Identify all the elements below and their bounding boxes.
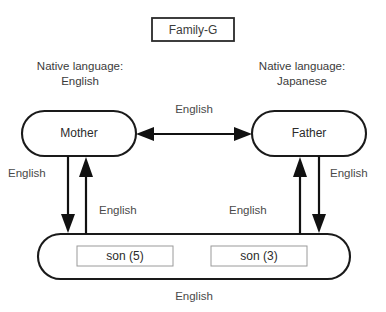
edge-father-to-children-arrowhead [312,214,326,233]
child-label-son-5: son (5) [106,249,143,263]
mother-native-language-line2: English [61,75,99,87]
edge-father-to-children: English [312,156,368,233]
node-mother: Mother [22,111,136,156]
edge-children-to-father-arrowhead [293,157,307,177]
father-native-language-annotation: Native language: Japanese [259,60,345,87]
node-children: son (5) son (3) [38,234,350,279]
father-native-language-line1: Native language: [259,60,345,72]
edge-mother-father-label: English [175,103,213,115]
node-father: Father [252,111,366,156]
edge-mother-to-children-label: English [8,167,46,179]
edge-mother-father-arrowhead-right [234,127,252,141]
node-mother-label: Mother [60,126,97,140]
edge-children-to-father-label: English [229,204,267,216]
family-g-diagram: Family-G Native language: English Native… [0,0,386,312]
title-box-label: Family-G [169,23,218,37]
children-language-caption: English [175,290,213,302]
edge-children-to-mother-arrowhead [79,157,93,177]
edge-children-to-mother: English [79,157,137,234]
mother-native-language-line1: Native language: [37,60,123,72]
edge-children-to-father: English [229,157,307,234]
title-box: Family-G [152,18,234,41]
edge-mother-to-children: English [8,156,75,233]
edge-father-to-children-label: English [330,167,368,179]
child-label-son-3: son (3) [240,249,277,263]
mother-native-language-annotation: Native language: English [37,60,123,87]
edge-mother-to-children-arrowhead [61,214,75,233]
edge-mother-father-arrowhead-left [136,127,154,141]
edge-children-to-mother-label: English [99,204,137,216]
edge-mother-father: English [136,103,252,141]
node-father-label: Father [292,126,327,140]
father-native-language-line2: Japanese [277,75,327,87]
